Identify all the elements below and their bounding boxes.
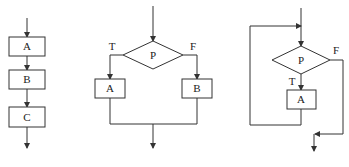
true-branch-arrow: [110, 55, 123, 79]
box-c-label: C: [23, 111, 30, 123]
sequence-diagram: A B C: [9, 18, 45, 148]
false-branch-arrow: [183, 55, 197, 79]
false-branch-arrow: [315, 60, 343, 134]
loop-body-label: A: [297, 93, 305, 105]
selection-diagram: P T A F B: [95, 6, 212, 148]
true-label: T: [289, 75, 296, 87]
false-label: F: [190, 40, 196, 52]
condition-label: P: [150, 49, 156, 61]
true-label: T: [109, 40, 116, 52]
false-box-label: B: [193, 82, 200, 94]
loop-diagram: P T A F: [250, 8, 343, 151]
true-box-label: A: [106, 82, 114, 94]
false-label: F: [333, 44, 339, 56]
condition-label: P: [298, 54, 304, 66]
flowchart-canvas: A B C P T A F B P T A: [0, 0, 349, 167]
merge-line: [110, 98, 197, 124]
box-b-label: B: [23, 73, 30, 85]
box-a-label: A: [23, 40, 31, 52]
